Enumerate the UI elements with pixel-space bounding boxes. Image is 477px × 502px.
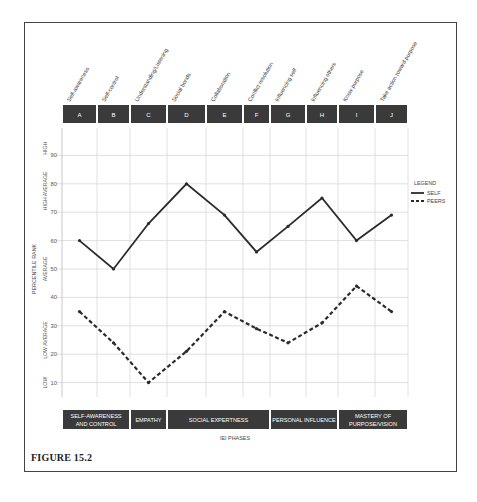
data-point <box>223 213 226 216</box>
phase-label: PURPOSE/VISION <box>349 421 397 427</box>
y-band-label: LOW AVERAGE <box>42 321 48 359</box>
y-tick-label: 70 <box>51 209 57 215</box>
data-point <box>185 350 188 353</box>
skill-label: Take action toward purpose <box>379 40 418 102</box>
skill-label: Conflict resolution <box>247 61 274 103</box>
legend-peers-label: PEERS <box>427 198 446 204</box>
line-chart: 102030405060708090ASelf-awarenessBSelf-c… <box>0 0 477 502</box>
y-tick-label: 10 <box>51 380 57 386</box>
skill-label: Influencing others <box>310 61 337 102</box>
data-point <box>320 321 323 324</box>
data-point <box>223 310 226 313</box>
legend-title: LEGEND <box>414 180 436 186</box>
y-band-label: AVERAGE <box>42 256 48 281</box>
data-point <box>286 225 289 228</box>
y-tick-label: 50 <box>51 266 57 272</box>
y-tick-label: 80 <box>51 181 57 187</box>
x-axis-title: IEI PHASES <box>220 435 250 441</box>
y-band-label: HIGH AVERAGE <box>42 171 48 210</box>
skill-label: Social bonds <box>171 72 192 103</box>
y-band-label: LOW <box>42 377 48 389</box>
column-letter: D <box>184 112 189 118</box>
y-tick-label: 20 <box>51 351 57 357</box>
data-point <box>112 267 115 270</box>
column-letter: C <box>146 112 151 118</box>
phase-label: MASTERY OF <box>355 413 392 419</box>
column-letter: J <box>390 112 393 118</box>
phase-label: EMPATHY <box>135 417 161 423</box>
data-point <box>355 284 358 287</box>
column-letter: B <box>111 112 115 118</box>
y-axis-title: PERCENTILE RANK <box>31 243 37 294</box>
data-point <box>147 381 150 384</box>
series-line-self <box>80 184 392 269</box>
data-point <box>78 310 81 313</box>
skill-label: Know purpose <box>342 69 365 103</box>
skill-label: Self-control <box>101 75 120 103</box>
data-point <box>390 213 393 216</box>
data-point <box>112 341 115 344</box>
data-point <box>255 327 258 330</box>
skill-label: Collaboration <box>210 71 232 103</box>
column-letter: F <box>255 112 259 118</box>
phase-label: SELF-AWARENESS <box>70 413 121 419</box>
y-tick-label: 60 <box>51 238 57 244</box>
data-point <box>390 310 393 313</box>
legend-self-label: SELF <box>427 190 441 196</box>
data-point <box>185 182 188 185</box>
phase-label: PERSONAL INFLUENCE <box>272 417 336 423</box>
series-line-peers <box>80 286 392 383</box>
column-letter: H <box>320 112 324 118</box>
data-point <box>147 222 150 225</box>
data-point <box>78 239 81 242</box>
skill-label: Understanding/Listening <box>134 47 169 102</box>
y-tick-label: 30 <box>51 323 57 329</box>
phase-label: SOCIAL EXPERTNESS <box>189 417 249 423</box>
data-point <box>286 341 289 344</box>
data-point <box>255 250 258 253</box>
column-letter: E <box>222 112 226 118</box>
skill-label: Self-awareness <box>66 66 91 103</box>
data-point <box>320 196 323 199</box>
column-letter: A <box>77 112 81 118</box>
y-tick-label: 90 <box>51 152 57 158</box>
figure-caption: FIGURE 15.2 <box>31 452 92 463</box>
y-band-label: HIGH <box>42 142 48 155</box>
skill-label: Influencing self <box>274 67 298 103</box>
data-point <box>355 239 358 242</box>
phase-label: AND CONTROL <box>76 421 117 427</box>
column-letter: G <box>286 112 291 118</box>
y-tick-label: 40 <box>51 294 57 300</box>
